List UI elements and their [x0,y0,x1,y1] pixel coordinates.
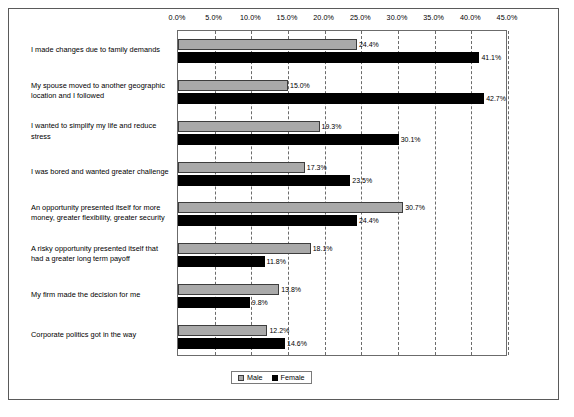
category-label: I wanted to simplify my life and reduce … [31,112,169,153]
chart-frame: 0.0%5.0%10.0%15.0%20.0%25.0%30.0%35.0%40… [8,8,559,400]
bar-group: 19.3%30.1% [178,113,506,154]
bar-group: 13.8%9.8% [178,276,506,317]
bar-line: 24.4% [178,39,506,50]
bar-value-label: 24.4% [359,217,379,224]
legend-swatch-icon [238,375,244,381]
bar-line: 42.7% [178,93,506,104]
bar-male[interactable] [178,162,305,173]
category-label: An opportunity presented itself for more… [31,193,169,234]
x-tick-label: 15.0% [277,13,298,22]
bar-female[interactable] [178,338,285,349]
category-label: My spouse moved to another geographic lo… [31,71,169,112]
bar-male[interactable] [178,121,320,132]
bar-value-label: 12.2% [269,327,289,334]
chart-legend: MaleFemale [231,371,312,384]
bar-line: 30.1% [178,134,506,145]
bar-value-label: 18.1% [313,245,333,252]
bar-female[interactable] [178,175,350,186]
x-tick-label: 10.0% [240,13,261,22]
bar-female[interactable] [178,93,484,104]
plot-area: 24.4%41.1%15.0%42.7%19.3%30.1%17.3%23.5%… [177,30,507,356]
bar-value-label: 30.7% [405,204,425,211]
bar-line: 12.2% [178,325,506,336]
bar-value-label: 11.8% [267,258,286,265]
bar-line: 17.3% [178,162,506,173]
bar-line: 19.3% [178,121,506,132]
bar-group: 30.7%24.4% [178,194,506,235]
bar-male[interactable] [178,243,311,254]
bar-value-label: 13.8% [281,286,301,293]
bar-line: 24.4% [178,215,506,226]
category-axis-labels: I made changes due to family demandsMy s… [31,30,173,356]
bar-value-label: 24.4% [359,41,379,48]
bar-value-label: 17.3% [307,164,327,171]
bar-value-label: 41.1% [481,54,501,61]
x-tick-label: 5.0% [205,13,222,22]
x-tick-label: 0.0% [169,13,186,22]
bar-group: 15.0%42.7% [178,72,506,113]
x-tick-label: 35.0% [423,13,444,22]
bar-male[interactable] [178,80,288,91]
x-tick-label: 40.0% [460,13,481,22]
category-label: Corporate politics got in the way [31,315,169,356]
legend-label: Female [281,374,305,381]
category-label: A risky opportunity presented itself tha… [31,234,169,275]
bar-value-label: 23.5% [352,177,372,184]
bar-female[interactable] [178,134,399,145]
x-tick-label: 45.0% [497,13,518,22]
bar-line: 9.8% [178,297,506,308]
x-axis-tick-labels: 0.0%5.0%10.0%15.0%20.0%25.0%30.0%35.0%40… [9,13,558,29]
bar-line: 13.8% [178,284,506,295]
bar-value-label: 9.8% [252,299,268,306]
bar-male[interactable] [178,325,267,336]
bar-group: 12.2%14.6% [178,316,506,357]
bar-line: 15.0% [178,80,506,91]
bar-value-label: 30.1% [401,136,421,143]
bar-male[interactable] [178,202,403,213]
bar-value-label: 19.3% [322,123,342,130]
bar-line: 11.8% [178,256,506,267]
x-tick-label: 20.0% [313,13,334,22]
category-label: My firm made the decision for me [31,275,169,316]
category-label: I was bored and wanted greater challenge [31,152,169,193]
bar-male[interactable] [178,284,279,295]
legend-entry[interactable]: Female [272,374,305,381]
bar-group: 18.1%11.8% [178,235,506,276]
bar-rows: 24.4%41.1%15.0%42.7%19.3%30.1%17.3%23.5%… [178,31,506,355]
bar-female[interactable] [178,256,265,267]
bar-value-label: 14.6% [287,340,307,347]
bar-line: 30.7% [178,202,506,213]
legend-entry[interactable]: Male [238,374,263,381]
bar-line: 41.1% [178,52,506,63]
bar-group: 24.4%41.1% [178,31,506,72]
bar-male[interactable] [178,39,357,50]
bar-line: 23.5% [178,175,506,186]
x-tick-label: 25.0% [350,13,371,22]
legend-swatch-icon [272,375,278,381]
category-label: I made changes due to family demands [31,30,169,71]
gridline [508,31,509,355]
bar-value-label: 15.0% [290,82,310,89]
bar-line: 14.6% [178,338,506,349]
bar-line: 18.1% [178,243,506,254]
bar-female[interactable] [178,52,479,63]
bar-female[interactable] [178,297,250,308]
bar-value-label: 42.7% [486,95,506,102]
legend-label: Male [247,374,263,381]
x-tick-label: 30.0% [387,13,408,22]
bar-female[interactable] [178,215,357,226]
bar-group: 17.3%23.5% [178,153,506,194]
